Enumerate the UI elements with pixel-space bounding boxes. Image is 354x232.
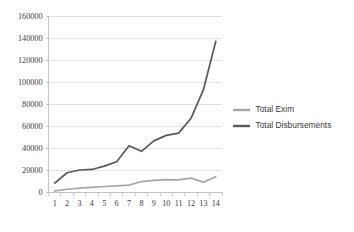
series-line-1 (55, 177, 216, 191)
x-axis-tick-label: 3 (77, 199, 81, 208)
y-axis-tick-label: 160000 (18, 12, 43, 21)
y-axis-tick-label: 120000 (18, 56, 43, 65)
legend-label-2: Total Disbursements (256, 120, 332, 130)
x-axis-tick-label: 14 (212, 199, 220, 208)
y-axis-tick-label: 40000 (22, 144, 42, 153)
x-axis-tick-label: 8 (139, 199, 143, 208)
x-axis-tick-label: 13 (199, 199, 207, 208)
x-axis-tick-label: 5 (102, 199, 106, 208)
x-axis-tick-labels: 1234567891011121314 (53, 199, 220, 208)
x-axis-tick-label: 12 (187, 199, 195, 208)
y-axis-tick-label: 20000 (22, 166, 42, 175)
gridlines-group (49, 16, 223, 192)
legend-label-1: Total Exim (256, 104, 295, 114)
y-axis-tick-label: 80000 (22, 100, 42, 109)
chart-legend: Total EximTotal Disbursements (233, 104, 331, 130)
y-axis-tick-label: 60000 (22, 122, 42, 131)
x-axis-tick-label: 1 (53, 199, 57, 208)
y-axis-tick-labels: 1600001400001200001000008000060000400002… (18, 12, 43, 197)
x-axis-tick-label: 7 (127, 199, 131, 208)
line-chart: 1600001400001200001000008000060000400002… (0, 0, 354, 232)
x-axis-tick-label: 4 (90, 199, 94, 208)
x-axis-tick-label: 10 (162, 199, 170, 208)
y-axis-tick-label: 140000 (18, 34, 43, 43)
x-axis-tick-label: 2 (65, 199, 69, 208)
x-axis-tick-label: 11 (175, 199, 183, 208)
y-axis-tick-label: 100000 (18, 78, 43, 87)
x-axis-tick-label: 9 (152, 199, 156, 208)
y-axis-tick-label: 0 (38, 188, 42, 197)
x-axis-tick-label: 6 (115, 199, 119, 208)
series-line-2 (55, 41, 216, 183)
data-series-group (55, 41, 216, 191)
tickmarks-group (46, 16, 223, 196)
chart-container: 1600001400001200001000008000060000400002… (0, 0, 354, 232)
